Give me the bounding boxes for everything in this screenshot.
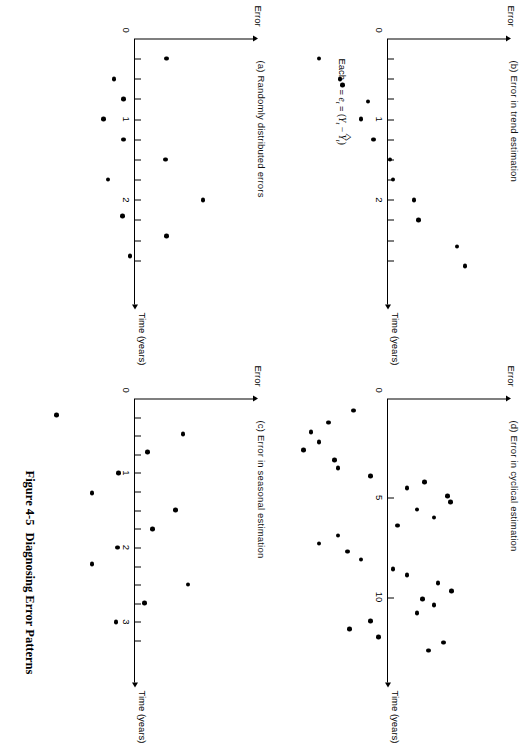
data-point (415, 507, 420, 512)
data-point (436, 580, 441, 585)
data-point (186, 582, 191, 587)
tick-mark (135, 219, 141, 220)
tick-label: 1 (121, 116, 132, 121)
panel-b-origin-label: 0 (374, 27, 385, 32)
panel-d-time-axis-arrow (385, 682, 391, 687)
tick-label: 10 (374, 591, 385, 602)
panel-c-error-axis-arrow (253, 395, 258, 401)
data-point (416, 217, 421, 222)
data-point (54, 412, 59, 417)
legend-Y-symbol: Y (337, 117, 347, 122)
panel-b-time-axis-arrow (385, 304, 391, 309)
tick-mark (388, 139, 394, 140)
tick-mark (135, 566, 141, 567)
panel-b-error-axis-arrow (506, 35, 511, 41)
data-point (351, 408, 356, 413)
data-point (106, 177, 111, 182)
tick-mark (388, 497, 394, 498)
data-point (405, 572, 410, 577)
residual-definition-legend: Each = et = (Yt − Yt) (334, 58, 348, 144)
tick-mark (135, 159, 141, 160)
panel-c-title: (c) Error in seasonal estimation (256, 420, 267, 558)
data-point (376, 634, 381, 639)
tick-mark (135, 472, 141, 473)
tick-mark (388, 98, 394, 99)
data-point (445, 493, 450, 498)
data-point (332, 457, 337, 462)
data-point (150, 526, 155, 531)
panel-b-time-label: Time (years) (390, 312, 401, 365)
tick-mark (135, 491, 141, 492)
data-point (415, 610, 420, 615)
panel-a-error-axis (135, 38, 253, 39)
panel-a-error-label: Error (253, 5, 264, 26)
tick-mark (135, 119, 141, 120)
data-point (441, 640, 446, 645)
data-point (142, 600, 147, 605)
panel-d-time-axis (387, 398, 388, 682)
panel-c-error-label: Error (253, 365, 264, 386)
tick-label: 2 (121, 197, 132, 202)
data-point (368, 473, 373, 478)
legend-e-subscript: t (334, 101, 342, 103)
tick-label: 2 (121, 544, 132, 549)
data-point (90, 490, 95, 495)
tick-mark (135, 98, 141, 99)
panel-d-error-label: Error (506, 365, 517, 386)
panel-d-title: (d) Error in cyclical estimation (509, 420, 520, 551)
panel-b-error-label: Error (506, 5, 517, 26)
data-point (345, 549, 350, 554)
panel-c-time-axis (134, 398, 135, 682)
tick-mark (388, 199, 394, 200)
panel-b-title: (b) Error in trend estimation (509, 60, 520, 181)
data-point (336, 465, 341, 470)
data-point (145, 449, 150, 454)
data-point (121, 137, 126, 142)
data-point (391, 566, 396, 571)
tick-mark (135, 584, 141, 585)
data-point (432, 602, 437, 607)
legend-Yhat-symbol: Y (337, 134, 347, 139)
data-point (347, 626, 352, 631)
tick-mark (135, 454, 141, 455)
tick-label: 5 (374, 495, 385, 500)
figure-title: Diagnosing Error Patterns (23, 532, 37, 674)
tick-mark (135, 179, 141, 180)
tick-mark (135, 547, 141, 548)
tick-mark (135, 510, 141, 511)
panel-b-error-axis (388, 38, 506, 39)
data-point (164, 56, 169, 61)
legend-Yhat-accent: Y (337, 134, 347, 139)
tick-label: 3 (121, 619, 132, 624)
data-point (426, 648, 431, 653)
data-point (422, 479, 427, 484)
data-point (405, 485, 410, 490)
data-point (391, 177, 396, 182)
tick-mark (135, 603, 141, 604)
legend-Y-subscript: t (334, 122, 342, 124)
data-point (201, 197, 206, 202)
tick-mark (135, 240, 141, 241)
data-point (121, 96, 126, 101)
tick-mark (135, 417, 141, 418)
data-point (112, 76, 117, 81)
panel-c-error-axis (135, 398, 253, 399)
tick-label: 2 (374, 197, 385, 202)
legend-prefix: Each (337, 58, 348, 80)
data-point (115, 545, 120, 550)
data-point (317, 56, 322, 61)
tick-mark (135, 199, 141, 200)
panel-c-time-axis-arrow (132, 682, 138, 687)
data-point (101, 116, 106, 121)
tick-label: 1 (121, 470, 132, 475)
data-point (317, 439, 322, 444)
legend-equals-1: = (337, 89, 348, 95)
panel-a-time-label: Time (years) (137, 312, 148, 365)
panel-d-origin-label: 0 (374, 387, 385, 392)
data-point (420, 596, 425, 601)
legend-paren-close: ) (337, 141, 347, 144)
figure-caption: Figure 4-5Diagnosing Error Patterns (22, 470, 37, 674)
tick-mark (135, 78, 141, 79)
data-point (309, 429, 314, 434)
